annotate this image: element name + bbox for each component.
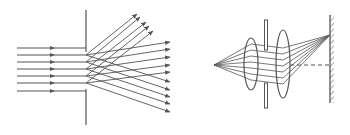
optics-diagram xyxy=(0,0,350,135)
diffracted-ray xyxy=(86,26,149,76)
arrow-head-icon xyxy=(50,67,55,71)
lens-2 xyxy=(276,30,290,98)
diffracted-ray xyxy=(86,42,170,55)
arrow-head-icon xyxy=(50,46,55,50)
aperture-top xyxy=(265,20,268,50)
aperture-bottom xyxy=(265,83,268,108)
diffracted-ray xyxy=(86,83,170,112)
lens-1 xyxy=(244,38,258,90)
arrow-head-icon xyxy=(50,74,55,78)
diagram-canvas xyxy=(0,0,350,135)
arrow-head-icon xyxy=(50,81,55,85)
diffracted-ray xyxy=(86,76,170,104)
light-ray xyxy=(214,35,330,78)
diffraction-grating-figure xyxy=(17,10,170,125)
arrow-head-icon xyxy=(50,60,55,64)
lens-mirror-figure xyxy=(214,15,334,108)
arrow-head-icon xyxy=(50,53,55,57)
arrow-head-icon xyxy=(50,89,55,93)
